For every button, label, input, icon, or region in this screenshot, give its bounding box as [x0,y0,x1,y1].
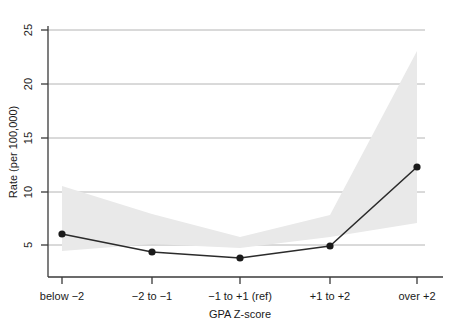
data-point-over-plus2 [413,163,420,170]
x-tick-label-minus1-to-plus1: −1 to +1 (ref) [208,290,272,302]
rate-by-gpa-zscore-line-chart: 25 20 15 10 5 Rate (per 100,000) below −… [0,0,454,332]
y-tick-label-25: 25 [22,24,34,36]
x-axis-title: GPA Z-score [209,308,271,320]
data-point-plus1-to-plus2 [326,242,333,249]
y-tick-label-10: 10 [22,186,34,198]
x-tick-label-minus2-to-minus1: −2 to −1 [132,290,172,302]
x-tick-label-below-minus2: below −2 [40,290,84,302]
chart-figure: 25 20 15 10 5 Rate (per 100,000) below −… [0,0,454,332]
y-axis-title: Rate (per 100,000) [7,106,19,198]
data-point-minus2-to-minus1 [148,248,155,255]
y-tick-label-15: 15 [22,132,34,144]
x-tick-label-over-plus2: over +2 [399,290,436,302]
x-tick-label-plus1-to-plus2: +1 to +2 [310,290,350,302]
data-point-minus1-to-plus1-ref [236,254,243,261]
data-point-below-minus2 [58,230,65,237]
y-tick-label-5: 5 [22,242,34,248]
y-tick-label-20: 20 [22,78,34,90]
